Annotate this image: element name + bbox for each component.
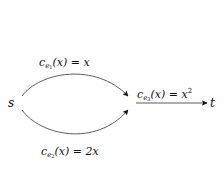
edge-e1-arc: [22, 74, 128, 96]
edge-e2-label: ce2(x) = 2x: [41, 145, 100, 159]
edge-e1-label: ce1(x) = x: [39, 56, 91, 70]
node-t-label: t: [210, 96, 215, 110]
node-s-label: s: [8, 96, 14, 110]
network-diagram: s ce1(x) = x ce2(x) = 2x ce3(x) = x2 t: [0, 0, 224, 170]
edge-e3-label: ce3(x) = x2: [137, 87, 192, 102]
edge-e2-arc: [22, 110, 128, 134]
